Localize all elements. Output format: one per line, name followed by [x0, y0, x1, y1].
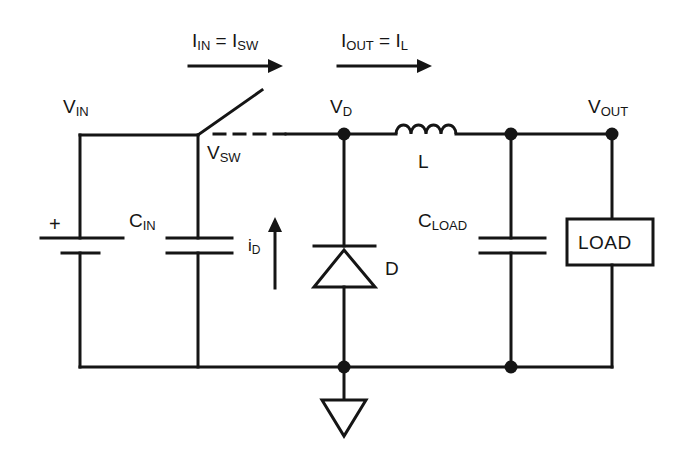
- inductor-coil: [396, 125, 456, 134]
- junction-dot-vout: [606, 128, 619, 141]
- schematic-canvas: IIN = ISW IOUT = IL VIN VSW VD VOUT + CI…: [0, 0, 686, 464]
- junction-dot-vd: [338, 128, 351, 141]
- label-id: iD: [248, 237, 260, 254]
- label-cload-sub: LOAD: [432, 218, 467, 233]
- label-battery-plus: +: [49, 214, 61, 234]
- label-vout-sub: OUT: [601, 104, 628, 119]
- label-vin: VIN: [63, 97, 89, 116]
- label-cin-sub: IN: [143, 218, 156, 233]
- label-vsw: VSW: [207, 143, 241, 162]
- label-cin-main: C: [129, 210, 143, 231]
- label-input-current: IIN = ISW: [192, 31, 258, 50]
- label-vsw-sub: SW: [220, 150, 241, 165]
- label-vsw-main: V: [207, 142, 220, 163]
- label-output-current: IOUT = IL: [341, 31, 408, 50]
- diode-triangle: [314, 250, 375, 287]
- label-inductor: L: [418, 152, 429, 171]
- label-cload-main: C: [418, 210, 432, 231]
- label-id-sub: D: [252, 243, 261, 257]
- label-vout-main: V: [588, 96, 601, 117]
- label-cin: CIN: [129, 211, 156, 230]
- ground-triangle: [322, 400, 366, 436]
- label-cload: CLOAD: [418, 211, 467, 230]
- label-iin-sub: IN: [197, 38, 210, 53]
- label-vd-sub: D: [343, 104, 352, 119]
- label-diode: D: [385, 259, 399, 278]
- label-iout-sub: OUT: [346, 38, 373, 53]
- label-il-sub: L: [401, 38, 408, 53]
- output-current-arrow: [338, 59, 432, 73]
- label-iin-eq: =: [210, 30, 232, 51]
- label-vout: VOUT: [588, 97, 628, 116]
- label-vin-main: V: [63, 96, 76, 117]
- label-load-box: LOAD: [578, 233, 632, 252]
- junction-dot-gnd-diode: [338, 361, 351, 374]
- label-vd: VD: [330, 97, 352, 116]
- label-iout-eq: =: [374, 30, 396, 51]
- label-vin-sub: IN: [76, 104, 89, 119]
- junction-dot-cload: [505, 128, 518, 141]
- label-il-main: I: [395, 30, 400, 51]
- diode-current-arrow: [268, 217, 282, 288]
- input-current-arrow: [189, 59, 283, 73]
- label-isw-sub: SW: [237, 38, 258, 53]
- junction-dot-gnd-cload: [505, 361, 518, 374]
- switch-blade: [198, 90, 262, 135]
- label-vd-main: V: [330, 96, 343, 117]
